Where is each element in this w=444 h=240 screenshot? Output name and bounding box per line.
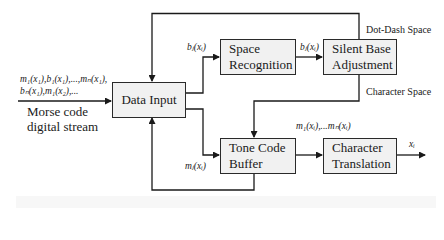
edge-label-to-tone-buffer: mⱼ(xᵢ) — [185, 160, 206, 171]
input-sequence-line-2: bₙ(x₁),m₁(x₂),... — [20, 85, 78, 96]
space-recognition-label-1: Space — [229, 41, 293, 57]
char-translation-label-1: Character — [332, 140, 391, 156]
output-label: xᵢ — [409, 139, 415, 149]
edge-label-to-space-recognition: bⱼ(xᵢ) — [187, 41, 206, 52]
data-input-label: Data Input — [121, 92, 176, 107]
faded-caption-band — [16, 196, 436, 208]
input-sequence-line-1: m₁(x₁),b₁(x₁),...,mₙ(x₁), — [20, 73, 107, 84]
edge-label-to-silent-base: bⱼ(xᵢ) — [300, 41, 319, 52]
edge-label-to-char-translation: m₁(xᵢ),...mₙ(xᵢ) — [296, 120, 351, 131]
tone-code-buffer-block: Tone Code Buffer — [220, 138, 296, 174]
tone-code-label-1: Tone Code — [229, 140, 286, 156]
dot-dash-space-label: Dot-Dash Space — [366, 24, 431, 35]
tone-code-label-2: Buffer — [229, 156, 286, 172]
silent-base-label-2: Adjustment — [332, 57, 393, 73]
space-recognition-label-2: Recognition — [229, 57, 293, 73]
stream-label-line-1: Morse code — [27, 104, 88, 120]
silent-base-adjustment-block: Silent Base Adjustment — [323, 39, 397, 75]
char-translation-label-2: Translation — [332, 156, 391, 172]
silent-base-label-1: Silent Base — [332, 41, 393, 57]
data-input-block: Data Input — [112, 82, 186, 118]
stream-label-line-2: digital stream — [27, 119, 98, 135]
character-translation-block: Character Translation — [323, 138, 397, 174]
space-recognition-block: Space Recognition — [220, 39, 296, 75]
character-space-label: Character Space — [366, 86, 431, 97]
